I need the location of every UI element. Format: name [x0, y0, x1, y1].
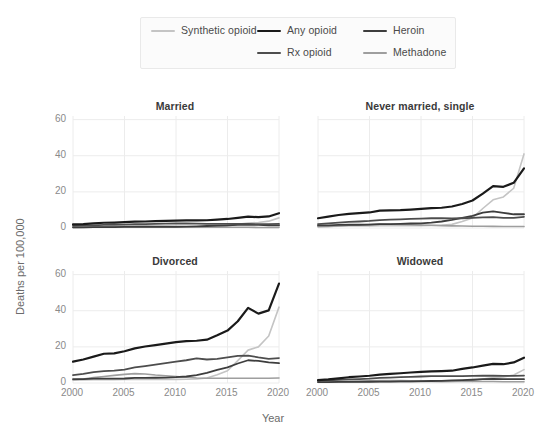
- panel-widowed: Widowed: [317, 255, 523, 382]
- legend-swatch-any-opioid: [257, 30, 281, 32]
- x-axis-tick-label: 2010: [158, 388, 192, 398]
- plot-area: [317, 115, 525, 229]
- x-axis-tick-label: 2010: [403, 388, 437, 398]
- legend-swatch-synthetic-opioid: [151, 30, 175, 32]
- panel-title: Married: [72, 100, 278, 112]
- legend-swatch-rx-opioid: [257, 52, 281, 54]
- x-axis-tick-label: 2000: [300, 388, 334, 398]
- y-axis-tick-label: 60: [40, 269, 66, 279]
- panel-married: Married: [72, 100, 278, 227]
- legend-item-rx-opioid[interactable]: Rx opioid: [257, 46, 363, 59]
- plot-area: [72, 115, 280, 229]
- y-axis-tick-label: 0: [40, 377, 66, 387]
- panel-title: Widowed: [317, 255, 523, 267]
- legend-label-synthetic-opioid: Synthetic opioid: [181, 24, 257, 37]
- legend-label-heroin: Heroin: [393, 24, 425, 37]
- chart-root: Any opioid Heroin Synthetic opioid Rx op…: [0, 0, 546, 446]
- x-axis-title: Year: [0, 412, 546, 424]
- panel-never-married-single: Never married, single: [317, 100, 523, 227]
- x-axis-tick-label: 2005: [352, 388, 386, 398]
- legend-item-heroin[interactable]: Heroin: [363, 24, 467, 37]
- legend-item-methadone[interactable]: Methadone: [363, 46, 467, 59]
- x-axis-tick-label: 2005: [107, 388, 141, 398]
- y-axis-tick-label: 40: [40, 150, 66, 160]
- chart-legend: Any opioid Heroin Synthetic opioid Rx op…: [140, 17, 456, 69]
- legend-label-rx-opioid: Rx opioid: [287, 46, 332, 59]
- y-axis-tick-label: 40: [40, 305, 66, 315]
- x-axis-tick-label: 2015: [210, 388, 244, 398]
- legend-swatch-heroin: [363, 30, 387, 32]
- plot-area: [72, 270, 280, 384]
- legend-grid: Any opioid Heroin Synthetic opioid Rx op…: [141, 18, 455, 68]
- panel-title: Divorced: [72, 255, 278, 267]
- legend-item-synthetic-opioid[interactable]: Synthetic opioid: [151, 24, 257, 37]
- y-axis-title: Deaths per 100,000: [14, 218, 26, 315]
- legend-label-methadone: Methadone: [393, 46, 446, 59]
- x-axis-tick-label: 2020: [261, 388, 295, 398]
- x-axis-tick-label: 2020: [506, 388, 540, 398]
- y-axis-tick-label: 20: [40, 186, 66, 196]
- plot-area: [317, 270, 525, 384]
- x-axis-tick-label: 2000: [55, 388, 89, 398]
- panel-divorced: Divorced: [72, 255, 278, 382]
- legend-label-any-opioid: Any opioid: [287, 24, 337, 37]
- legend-swatch-methadone: [363, 52, 387, 54]
- panel-title: Never married, single: [317, 100, 523, 112]
- y-axis-tick-label: 60: [40, 114, 66, 124]
- x-axis-tick-label: 2015: [455, 388, 489, 398]
- legend-item-any-opioid[interactable]: Any opioid: [257, 24, 363, 37]
- y-axis-tick-label: 20: [40, 341, 66, 351]
- y-axis-tick-label: 0: [40, 222, 66, 232]
